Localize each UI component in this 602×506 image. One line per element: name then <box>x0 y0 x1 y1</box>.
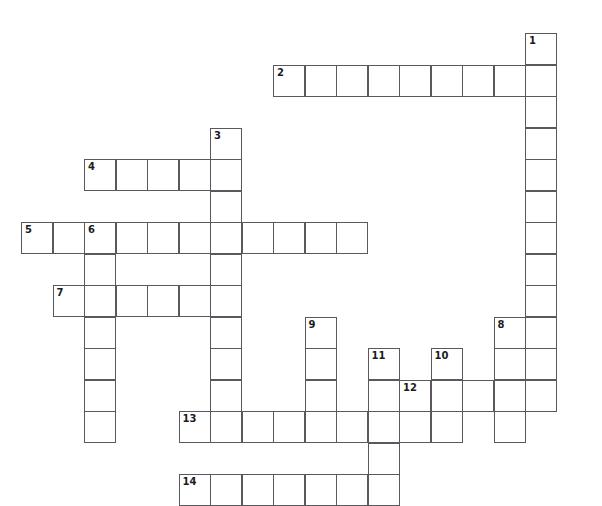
clue-number: 13 <box>183 413 197 425</box>
crossword-cell[interactable] <box>399 65 431 97</box>
clue-number: 7 <box>57 287 64 299</box>
crossword-cell[interactable] <box>368 380 400 412</box>
crossword-cell[interactable] <box>84 411 116 443</box>
crossword-cell[interactable]: 6 <box>84 222 116 254</box>
clue-number: 12 <box>403 382 417 394</box>
crossword-cell[interactable] <box>179 159 211 191</box>
crossword-cell[interactable] <box>179 285 211 317</box>
crossword-cell[interactable] <box>210 222 242 254</box>
crossword-cell[interactable] <box>179 222 211 254</box>
crossword-cell[interactable] <box>336 411 368 443</box>
crossword-cell[interactable]: 7 <box>53 285 85 317</box>
crossword-cell[interactable] <box>462 65 494 97</box>
crossword-cell[interactable] <box>305 222 337 254</box>
crossword-cell[interactable]: 13 <box>179 411 211 443</box>
crossword-cell[interactable]: 2 <box>273 65 305 97</box>
crossword-cell[interactable] <box>525 380 557 412</box>
crossword-cell[interactable] <box>273 411 305 443</box>
crossword-cell[interactable] <box>116 159 148 191</box>
crossword-cell[interactable] <box>525 65 557 97</box>
crossword-cell[interactable] <box>494 348 526 380</box>
crossword-cell[interactable] <box>368 474 400 506</box>
crossword-cell[interactable]: 3 <box>210 128 242 160</box>
crossword-cell[interactable] <box>84 380 116 412</box>
crossword-cell[interactable] <box>147 222 179 254</box>
clue-number: 8 <box>498 319 505 331</box>
crossword-cell[interactable] <box>525 159 557 191</box>
crossword-cell[interactable] <box>368 443 400 475</box>
crossword-cell[interactable] <box>147 285 179 317</box>
crossword-cell[interactable]: 1 <box>525 33 557 65</box>
crossword-cell[interactable] <box>525 285 557 317</box>
crossword-cell[interactable]: 10 <box>431 348 463 380</box>
clue-number: 14 <box>183 476 197 488</box>
crossword-cell[interactable] <box>494 411 526 443</box>
crossword-cell[interactable] <box>525 96 557 128</box>
crossword-cell[interactable]: 12 <box>399 380 431 412</box>
crossword-cell[interactable] <box>431 380 463 412</box>
crossword-cell[interactable] <box>53 222 85 254</box>
crossword-cell[interactable] <box>242 411 274 443</box>
crossword-cell[interactable]: 14 <box>179 474 211 506</box>
clue-number: 1 <box>529 35 536 47</box>
crossword-cell[interactable] <box>242 474 274 506</box>
crossword-cell[interactable] <box>84 285 116 317</box>
crossword-cell[interactable] <box>399 411 431 443</box>
crossword-cell[interactable] <box>116 222 148 254</box>
clue-number: 2 <box>277 67 284 79</box>
crossword-cell[interactable]: 5 <box>21 222 53 254</box>
crossword-cell[interactable] <box>210 411 242 443</box>
crossword-cell[interactable] <box>210 348 242 380</box>
crossword-cell[interactable] <box>210 380 242 412</box>
crossword-cell[interactable] <box>336 474 368 506</box>
crossword-cell[interactable] <box>494 65 526 97</box>
crossword-cell[interactable] <box>525 254 557 286</box>
crossword-cell[interactable] <box>368 411 400 443</box>
crossword-cell[interactable] <box>525 222 557 254</box>
crossword-cell[interactable] <box>84 348 116 380</box>
crossword-cell[interactable] <box>116 285 148 317</box>
clue-number: 5 <box>25 224 32 236</box>
crossword-cell[interactable]: 8 <box>494 317 526 349</box>
crossword-cell[interactable] <box>210 317 242 349</box>
crossword-cell[interactable] <box>305 411 337 443</box>
crossword-cell[interactable] <box>305 348 337 380</box>
clue-number: 11 <box>372 350 386 362</box>
clue-number: 3 <box>214 130 221 142</box>
crossword-cell[interactable] <box>525 348 557 380</box>
crossword-cell[interactable] <box>210 191 242 223</box>
crossword-cell[interactable]: 4 <box>84 159 116 191</box>
crossword-cell[interactable] <box>525 128 557 160</box>
crossword-cell[interactable] <box>84 254 116 286</box>
clue-number: 10 <box>435 350 449 362</box>
clue-number: 9 <box>309 319 316 331</box>
crossword-cell[interactable] <box>525 317 557 349</box>
crossword-cell[interactable] <box>431 65 463 97</box>
crossword-cell[interactable] <box>147 159 179 191</box>
crossword-cell[interactable] <box>368 65 400 97</box>
crossword-cell[interactable] <box>210 474 242 506</box>
crossword-cell[interactable] <box>305 474 337 506</box>
crossword-cell[interactable] <box>210 159 242 191</box>
crossword-cell[interactable] <box>305 65 337 97</box>
crossword-cell[interactable] <box>462 380 494 412</box>
crossword-cell[interactable]: 11 <box>368 348 400 380</box>
clue-number: 4 <box>88 161 95 173</box>
crossword-cell[interactable] <box>210 285 242 317</box>
crossword-cell[interactable] <box>525 191 557 223</box>
crossword-cell[interactable] <box>431 411 463 443</box>
crossword-cell[interactable]: 9 <box>305 317 337 349</box>
crossword-cell[interactable] <box>273 474 305 506</box>
crossword-cell[interactable] <box>494 380 526 412</box>
crossword-cell[interactable] <box>273 222 305 254</box>
crossword-cell[interactable] <box>336 222 368 254</box>
crossword-cell[interactable] <box>210 254 242 286</box>
crossword-cell[interactable] <box>305 380 337 412</box>
crossword-cell[interactable] <box>84 317 116 349</box>
clue-number: 6 <box>88 224 95 236</box>
crossword-cell[interactable] <box>242 222 274 254</box>
crossword-cell[interactable] <box>336 65 368 97</box>
